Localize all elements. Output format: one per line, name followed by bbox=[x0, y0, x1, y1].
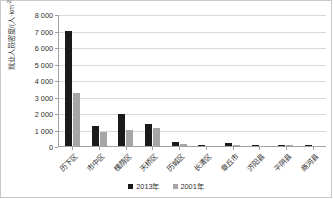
bar-2013年-长清区[interactable] bbox=[198, 145, 205, 146]
bar-2001年-章丘市[interactable] bbox=[233, 145, 240, 146]
bar-group bbox=[166, 15, 193, 146]
x-label-cell: 历城区 bbox=[166, 150, 193, 180]
y-axis-title-text: 就业人员密度/(人·km bbox=[7, 5, 16, 70]
x-tick-label-商河县: 商河县 bbox=[298, 151, 320, 173]
bar-2001年-天桥区[interactable] bbox=[153, 128, 160, 146]
plot-area: 8 0007 0006 0005 0004 0003 0002 0001 000… bbox=[58, 15, 326, 147]
x-label-cell: 章丘市 bbox=[219, 150, 246, 180]
bar-2013年-市中区[interactable] bbox=[92, 126, 99, 146]
bar-2001年-历城区[interactable] bbox=[180, 144, 187, 146]
x-label-cell: 历下区 bbox=[59, 150, 86, 180]
bar-group bbox=[59, 15, 86, 146]
x-tick-label-长清区: 长清区 bbox=[191, 151, 213, 173]
y-tick-label: 4 000 bbox=[35, 77, 53, 86]
y-tick-mark bbox=[55, 147, 58, 148]
bar-group bbox=[193, 15, 220, 146]
bar-group bbox=[86, 15, 113, 146]
x-label-cell: 济阳县 bbox=[246, 150, 273, 180]
bar-2013年-章丘市[interactable] bbox=[225, 143, 232, 146]
bar-2013年-商河县[interactable] bbox=[305, 145, 312, 146]
legend-item-2001年[interactable]: 2001年 bbox=[173, 181, 204, 191]
x-tick-label-槐荫区: 槐荫区 bbox=[111, 151, 133, 173]
y-tick-label: 6 000 bbox=[35, 44, 53, 53]
y-tick-label: 3 000 bbox=[35, 93, 53, 102]
x-tick-label-天桥区: 天桥区 bbox=[138, 151, 160, 173]
y-tick-label: 8 000 bbox=[35, 11, 53, 20]
x-tick-label-历城区: 历城区 bbox=[164, 151, 186, 173]
legend-swatch-2013年 bbox=[128, 184, 133, 189]
x-tick-label-历下区: 历下区 bbox=[57, 151, 79, 173]
bar-2001年-市中区[interactable] bbox=[100, 132, 107, 146]
bar-group bbox=[219, 15, 246, 146]
bar-group bbox=[246, 15, 273, 146]
y-axis-title-exponent: -2 bbox=[6, 0, 12, 5]
bar-group bbox=[139, 15, 166, 146]
bar-2013年-历下区[interactable] bbox=[65, 31, 72, 146]
legend: 2013年2001年 bbox=[1, 181, 331, 191]
x-label-cell: 市中区 bbox=[86, 150, 113, 180]
y-tick-label: 7 000 bbox=[35, 27, 53, 36]
bar-2013年-济阳县[interactable] bbox=[252, 145, 259, 146]
bar-group bbox=[299, 15, 326, 146]
x-tick-label-章丘市: 章丘市 bbox=[218, 151, 240, 173]
y-tick-label: 0 bbox=[49, 143, 53, 152]
bar-group bbox=[273, 15, 300, 146]
legend-swatch-2001年 bbox=[173, 184, 178, 189]
bar-2013年-槐荫区[interactable] bbox=[118, 114, 125, 146]
y-tick-label: 1 000 bbox=[35, 126, 53, 135]
bar-2001年-历下区[interactable] bbox=[73, 93, 80, 146]
bar-2013年-天桥区[interactable] bbox=[145, 124, 152, 146]
bar-2013年-平阴县[interactable] bbox=[278, 145, 285, 146]
y-axis-title: 就业人员密度/(人·km-2) bbox=[2, 0, 16, 94]
bar-2001年-槐荫区[interactable] bbox=[126, 130, 133, 146]
legend-label-2013年: 2013年 bbox=[136, 181, 159, 191]
bar-groups bbox=[59, 15, 326, 146]
legend-item-2013年[interactable]: 2013年 bbox=[128, 181, 159, 191]
x-label-cell: 平阴县 bbox=[273, 150, 300, 180]
y-tick-label: 5 000 bbox=[35, 60, 53, 69]
x-label-cell: 长清区 bbox=[193, 150, 220, 180]
bar-2013年-历城区[interactable] bbox=[172, 142, 179, 146]
legend-label-2001年: 2001年 bbox=[181, 181, 204, 191]
x-axis-labels: 历下区市中区槐荫区天桥区历城区长清区章丘市济阳县平阴县商河县 bbox=[59, 150, 326, 180]
y-tick-label: 2 000 bbox=[35, 110, 53, 119]
x-tick-label-济阳县: 济阳县 bbox=[244, 151, 266, 173]
bar-group bbox=[112, 15, 139, 146]
x-label-cell: 天桥区 bbox=[139, 150, 166, 180]
x-tick-label-平阴县: 平阴县 bbox=[271, 151, 293, 173]
x-label-cell: 商河县 bbox=[299, 150, 326, 180]
bar-2001年-平阴县[interactable] bbox=[286, 145, 293, 146]
chart-container: 就业人员密度/(人·km-2) 8 0007 0006 0005 0004 00… bbox=[0, 0, 332, 198]
x-label-cell: 槐荫区 bbox=[112, 150, 139, 180]
x-tick-label-市中区: 市中区 bbox=[84, 151, 106, 173]
